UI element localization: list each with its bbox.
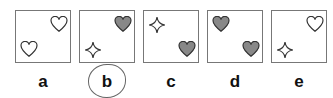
selection-circle	[88, 64, 126, 98]
option-label-d: d	[207, 72, 263, 92]
option-box-c[interactable]	[143, 10, 199, 63]
option-box-a[interactable]	[15, 10, 71, 63]
outline-heart-icon	[20, 41, 38, 59]
outline-star-icon	[276, 41, 294, 59]
filled-heart-icon	[242, 41, 260, 59]
option-box-e[interactable]	[271, 10, 327, 63]
filled-heart-icon	[178, 41, 196, 59]
option-label-c: c	[143, 72, 199, 92]
outline-star-icon	[148, 16, 166, 34]
option-box-b[interactable]	[79, 10, 135, 63]
option-label-a: a	[15, 72, 71, 92]
option-label-e: e	[271, 72, 327, 92]
filled-heart-icon	[114, 16, 132, 34]
outline-heart-icon	[50, 16, 68, 34]
outline-heart-icon	[306, 16, 324, 34]
option-box-d[interactable]	[207, 10, 263, 63]
filled-heart-icon	[212, 16, 230, 34]
outline-star-icon	[84, 41, 102, 59]
